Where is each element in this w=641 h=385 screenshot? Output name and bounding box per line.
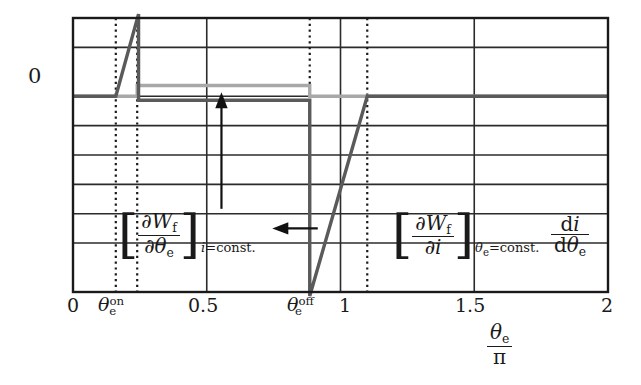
W-symbol-1: W — [152, 209, 173, 233]
x-tick-label-1.5: 1.5 — [455, 296, 485, 315]
W-symbol-2: W — [426, 211, 447, 235]
x-tick-label-0.5: 0.5 — [188, 296, 218, 315]
partial-symbol-3: ∂ — [415, 211, 425, 235]
theta-glyph: θ — [98, 293, 109, 315]
annotation-current-slope-term: di dθe — [551, 214, 589, 259]
arrow-head — [272, 222, 288, 234]
partial-symbol-1: ∂ — [141, 209, 151, 233]
x-title-pi: π — [493, 345, 506, 369]
annotation-flux-linkage-term: [ ∂Wf ∂i ]θe=const. — [392, 209, 538, 261]
e-subscript-3: e — [579, 244, 586, 259]
current-slope-numerator: di — [551, 214, 589, 234]
flux-condition-subscript: θe=const. — [475, 240, 539, 255]
e-subscript-1: e — [167, 245, 174, 260]
f-subscript-2: f — [446, 222, 451, 237]
partial-symbol-4: ∂ — [425, 235, 435, 259]
x-axis-title-numerator: θe — [487, 322, 512, 346]
chart-plot-area — [0, 0, 641, 385]
bracket-right-2: ] — [454, 208, 474, 260]
theta-off-subscript: e — [295, 304, 302, 318]
const-text-1: =const. — [205, 240, 255, 255]
flux-denominator: ∂i — [412, 236, 454, 257]
bracket-left-2: [ — [392, 208, 412, 260]
theta-symbol-1: θ — [155, 234, 167, 258]
figure-canvas: 0 0 0.5 1 1.5 2 θone θoffe θe π [ ∂Wf ∂θ… — [0, 0, 641, 385]
bracket-right-1: ] — [180, 208, 200, 260]
torque-numerator: ∂Wf — [138, 211, 180, 235]
d-symbol-2: d — [554, 233, 567, 257]
x-tick-label-theta-e-on: θone — [98, 295, 116, 318]
x-tick-label-0: 0 — [67, 296, 79, 315]
theta-on-subscript: e — [109, 304, 116, 318]
flux-numerator: ∂Wf — [412, 213, 454, 237]
flux-fraction: ∂Wf ∂i — [412, 213, 454, 258]
i-symbol-2: i — [435, 235, 441, 259]
x-axis-title-fraction: θe π — [487, 322, 512, 367]
y-axis-zero-label: 0 — [28, 66, 41, 87]
x-axis-title: θe π — [487, 322, 512, 367]
torque-condition-subscript: i=const. — [201, 240, 256, 255]
x-tick-label-theta-e-off: θoffe — [287, 295, 302, 318]
torque-denominator: ∂θe — [138, 235, 180, 260]
partial-symbol-2: ∂ — [144, 234, 154, 258]
const-text-2: =const. — [489, 240, 539, 255]
current-slope-denominator: dθe — [551, 234, 589, 259]
theta-symbol-2: θ — [475, 240, 483, 255]
bracket-left-1: [ — [118, 208, 138, 260]
x-tick-label-2: 2 — [601, 296, 613, 315]
annotation-torque-term: [ ∂Wf ∂θe ]i=const. — [118, 209, 255, 261]
theta-symbol-3: θ — [567, 233, 579, 257]
torque-fraction: ∂Wf ∂θe — [138, 211, 180, 259]
x-axis-title-denominator: π — [487, 346, 512, 367]
x-title-theta: θ — [490, 320, 502, 344]
f-subscript-1: f — [172, 220, 177, 235]
x-tick-label-1: 1 — [339, 296, 351, 315]
current-slope-fraction: di dθe — [551, 214, 589, 259]
